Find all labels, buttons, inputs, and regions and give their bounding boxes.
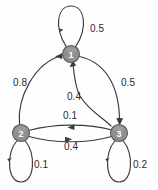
edge-1-to-1 (59, 6, 84, 47)
edge-2-to-2-weight: 0.1 (34, 159, 48, 170)
edge-1-to-1-path (59, 6, 84, 47)
node-2-label: 2 (18, 129, 23, 139)
state-transition-diagram: 0.5 0.8 0.5 0.4 0.1 0.4 (0, 0, 158, 190)
edge-1-to-1-weight: 0.5 (90, 23, 104, 34)
edge-3-to-1-weight: 0.4 (67, 91, 81, 102)
edge-2-to-3-weight: 0.1 (63, 110, 77, 121)
edge-2-to-2 (7, 141, 32, 183)
diagram-canvas: 0.5 0.8 0.5 0.4 0.1 0.4 (0, 0, 158, 190)
node-3-label: 3 (116, 129, 121, 139)
edge-3-to-2-weight: 0.4 (64, 141, 78, 152)
edge-3-to-3-arrowhead (105, 158, 109, 162)
edge-3-to-3 (105, 141, 130, 183)
edge-1-to-3-weight: 0.5 (121, 77, 135, 88)
node-2[interactable]: 2 (13, 125, 30, 142)
node-3[interactable]: 3 (111, 125, 128, 142)
edge-3-to-3-path (108, 141, 131, 183)
node-1[interactable]: 1 (63, 46, 80, 63)
node-1-label: 1 (68, 50, 73, 60)
edge-2-to-1-path (19, 56, 62, 125)
edge-2-to-1 (19, 53, 62, 125)
edge-3-to-3-weight: 0.2 (133, 159, 147, 170)
edge-2-to-3 (29, 124, 113, 130)
edge-1-to-3-path (80, 57, 120, 124)
edge-1-to-3 (80, 57, 124, 126)
edge-2-to-2-path (10, 141, 33, 183)
edge-2-to-1-weight: 0.8 (13, 77, 27, 88)
edge-2-to-2-arrowhead (7, 158, 11, 162)
edge-1-to-1-arrowhead (59, 29, 63, 33)
